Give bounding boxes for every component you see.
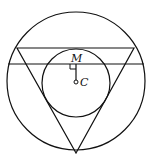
label-c: C xyxy=(80,76,89,89)
label-m: M xyxy=(70,52,83,65)
geometry-diagram: M C xyxy=(0,0,152,160)
point-c xyxy=(74,80,78,84)
